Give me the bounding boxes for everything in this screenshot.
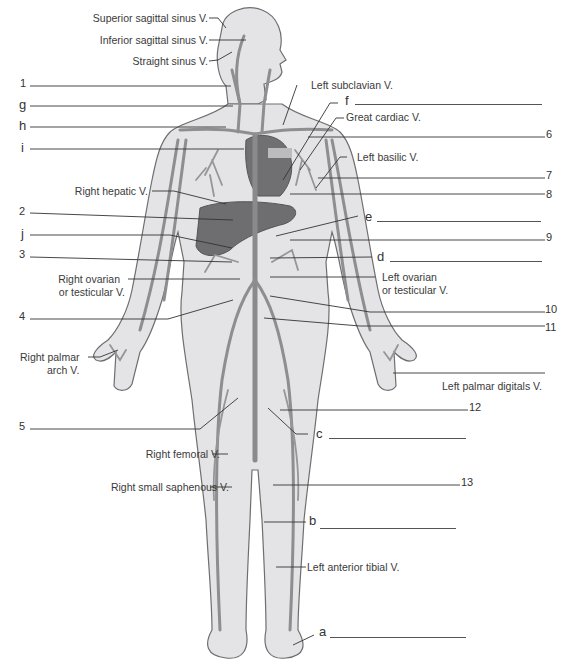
letter-f: f — [345, 94, 349, 108]
answer-blank-a[interactable] — [330, 637, 466, 638]
label-right-palmar-arch-2: arch V. — [47, 364, 79, 376]
letter-e: e — [365, 210, 372, 224]
letter-i: i — [21, 141, 24, 155]
callout-6: 6 — [546, 128, 552, 140]
letter-j: j — [21, 227, 24, 241]
callout-10: 10 — [545, 303, 557, 315]
leader-lines — [0, 0, 571, 668]
label-right-ovarian-2: or testicular V. — [59, 286, 125, 298]
answer-blank-c[interactable] — [329, 438, 466, 439]
letter-d: d — [377, 250, 384, 264]
label-straight-sinus: Straight sinus V. — [133, 55, 209, 67]
callout-4: 4 — [19, 310, 25, 322]
label-left-basilic: Left basilic V. — [357, 151, 418, 163]
callout-11: 11 — [545, 321, 556, 333]
label-right-femoral: Right femoral V. — [146, 448, 220, 460]
answer-blank-e[interactable] — [377, 221, 541, 222]
label-right-hepatic: Right hepatic V. — [75, 185, 148, 197]
answer-blank-d[interactable] — [390, 261, 542, 262]
callout-2: 2 — [19, 205, 25, 217]
label-right-palmar-arch-1: Right palmar — [20, 351, 80, 363]
label-superior-sagittal-sinus: Superior sagittal sinus V. — [93, 12, 208, 24]
venous-system-diagram: Superior sagittal sinus V. Inferior sagi… — [0, 0, 571, 668]
letter-b: b — [309, 514, 316, 528]
callout-5: 5 — [19, 420, 25, 432]
callout-8: 8 — [546, 188, 552, 200]
answer-blank-b[interactable] — [320, 528, 456, 529]
callout-7: 7 — [546, 169, 552, 181]
label-great-cardiac: Great cardiac V. — [346, 111, 421, 123]
letter-g: g — [19, 98, 26, 112]
letter-c: c — [316, 427, 323, 441]
label-left-anterior-tibial: Left anterior tibial V. — [307, 561, 399, 573]
label-left-ovarian-1: Left ovarian — [382, 271, 437, 283]
letter-h: h — [19, 119, 26, 133]
callout-1: 1 — [20, 77, 26, 89]
label-inferior-sagittal-sinus: Inferior sagittal sinus V. — [100, 34, 208, 46]
callout-13: 13 — [461, 476, 473, 488]
callout-12: 12 — [469, 401, 481, 413]
label-left-palmar-digitals: Left palmar digitals V. — [442, 380, 542, 392]
label-right-small-saphenous: Right small saphenous V. — [111, 481, 229, 493]
label-right-ovarian-1: Right ovarian — [58, 273, 120, 285]
callout-9: 9 — [546, 231, 552, 243]
label-left-subclavian: Left subclavian V. — [311, 79, 393, 91]
answer-blank-f[interactable] — [355, 104, 542, 105]
callout-3: 3 — [19, 248, 25, 260]
letter-a: a — [319, 625, 326, 639]
label-left-ovarian-2: or testicular V. — [382, 284, 448, 296]
